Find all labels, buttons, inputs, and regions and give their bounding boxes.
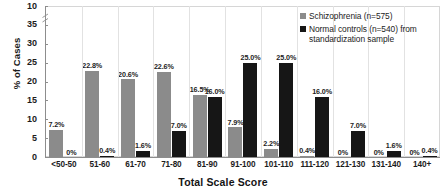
bar: 16.0% — [315, 97, 329, 157]
legend-label: Normal controls (n=540) from standardiza… — [309, 24, 438, 44]
bar: 16.0% — [208, 97, 222, 157]
bar-value-label: 0% — [66, 148, 76, 157]
x-tick-label: 71-80 — [153, 160, 189, 169]
y-tick-label: 30 — [0, 38, 42, 49]
x-tick-label: 101-110 — [261, 160, 297, 169]
bar-value-label: 16.0% — [312, 87, 332, 96]
bar: 25.0% — [279, 63, 293, 157]
bar-value-label: 25.0% — [241, 53, 261, 62]
x-tick-label: 121-130 — [333, 160, 369, 169]
bar-value-label: 22.8% — [82, 61, 102, 70]
bar: 7.2% — [49, 130, 63, 157]
bar-group: 20.6%1.6% — [118, 6, 154, 157]
bar-group: 7.2%0% — [46, 6, 82, 157]
bar-group: 16.5%16.0% — [189, 6, 225, 157]
y-tick-label: 0 — [0, 152, 42, 163]
legend-swatch-icon — [300, 26, 306, 32]
bar: 7.0% — [172, 131, 186, 157]
bar-value-label: 0% — [374, 148, 384, 157]
bar-value-label: 0.4% — [299, 146, 315, 155]
bar: 7.0% — [351, 131, 365, 157]
y-tick-label: 25 — [0, 57, 42, 68]
bar-value-label: 7.0% — [350, 121, 366, 130]
bar: 25.0% — [243, 63, 257, 157]
x-axis-line — [45, 157, 440, 158]
y-tick-label: 15 — [0, 95, 42, 106]
bar-group: 22.6%7.0% — [153, 6, 189, 157]
bar: 22.8% — [85, 71, 99, 157]
bar-value-label: 1.6% — [135, 141, 151, 150]
x-tick-label: 131-140 — [368, 160, 404, 169]
category-separator — [225, 6, 226, 157]
bar-value-label: 16.0% — [205, 87, 225, 96]
x-tick-label: 51-60 — [82, 160, 118, 169]
bar: 16.5% — [193, 95, 207, 157]
bar-value-label: 7.0% — [171, 121, 187, 130]
y-tick-label: 35 — [0, 19, 42, 30]
bar-value-label: 0% — [409, 148, 419, 157]
y-tick-label: 10 — [0, 1, 42, 12]
bar: 7.9% — [228, 127, 242, 157]
bar-value-label: 25.0% — [276, 53, 296, 62]
bar-value-label: 20.6% — [118, 70, 138, 79]
bar-chart-figure: % of Cases 0510152025303510 7.2%0%22.8%0… — [0, 0, 446, 195]
bar-value-label: 7.9% — [227, 118, 243, 127]
bar-group: 22.8%0.4% — [82, 6, 118, 157]
legend-swatch-icon — [300, 13, 306, 19]
category-separator — [118, 6, 119, 157]
category-separator — [297, 6, 298, 157]
legend-label: Schizophrenia (n=575) — [309, 11, 392, 21]
bar-value-label: 22.6% — [154, 62, 174, 71]
category-separator — [189, 6, 190, 157]
bar-value-label: 1.6% — [386, 141, 402, 150]
x-tick-label: 81-90 — [189, 160, 225, 169]
bar: 22.6% — [157, 72, 171, 157]
x-tick-label: 61-70 — [118, 160, 154, 169]
bar-value-label: 2.2% — [263, 139, 279, 148]
chart-legend: Schizophrenia (n=575)Normal controls (n=… — [300, 11, 438, 47]
bar-value-label: 0.4% — [99, 146, 115, 155]
category-separator — [82, 6, 83, 157]
bar-group: 2.2%25.0% — [261, 6, 297, 157]
bar: 20.6% — [121, 79, 135, 157]
bar-value-label: 0.4% — [422, 146, 438, 155]
x-tick-label: 91-100 — [225, 160, 261, 169]
y-tick-label: 5 — [0, 133, 42, 144]
category-separator — [261, 6, 262, 157]
bar-group: 7.9%25.0% — [225, 6, 261, 157]
bar: 2.2% — [264, 149, 278, 157]
bar-value-label: 7.2% — [48, 120, 64, 129]
category-separator — [153, 6, 154, 157]
legend-item: Schizophrenia (n=575) — [300, 11, 438, 21]
bar-value-label: 0% — [338, 148, 348, 157]
x-tick-label: 111-120 — [297, 160, 333, 169]
y-tick-label: 20 — [0, 76, 42, 87]
x-tick-label: <50-50 — [46, 160, 82, 169]
x-tick-label: 140+ — [404, 160, 440, 169]
legend-item: Normal controls (n=540) from standardiza… — [300, 24, 438, 44]
x-axis-title: Total Scale Score — [0, 176, 446, 188]
y-tick-label: 10 — [0, 114, 42, 125]
